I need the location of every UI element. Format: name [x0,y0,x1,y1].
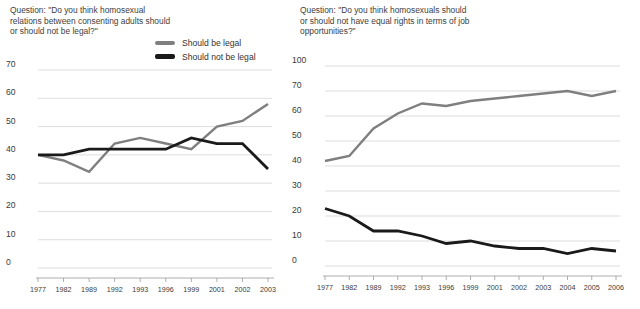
x-axis-tick-label: 2001 [209,285,225,294]
x-axis-tick-label: 1982 [56,285,72,294]
y-axis-tick-label: 20 [292,205,302,215]
y-axis-tick-label: 60 [6,87,16,97]
series-line-no-should-not [325,209,616,254]
right-chart-svg: 0102030405060701001977198219891992199319… [290,0,640,309]
y-axis-tick-label: 10 [292,230,302,240]
x-axis-tick-label: 1992 [390,283,406,292]
y-axis-tick-label: 20 [6,200,16,210]
x-axis-tick-label: 1999 [183,285,199,294]
y-axis-tick-label: 0 [6,257,11,267]
left-plot-area: 0102030405060701977198219891992199319961… [0,0,290,309]
y-axis-tick-label: 70 [6,59,16,69]
x-axis-tick-label: 2002 [234,285,250,294]
x-axis-tick-label: 2006 [608,283,624,292]
x-axis-tick-label: 2005 [584,283,600,292]
left-chart-panel: Question: "Do you think homosexual relat… [0,0,290,309]
series-line-yes-should [325,91,616,161]
y-axis-tick-label: 30 [6,172,16,182]
y-axis-tick-label: 40 [292,155,302,165]
y-axis-tick-label: 50 [292,130,302,140]
x-axis-tick-label: 1999 [463,283,479,292]
x-axis-tick-label: 2001 [487,283,503,292]
y-axis-tick-label: 50 [6,116,16,126]
x-axis-tick-label: 2003 [535,283,551,292]
y-axis-tick-label: 10 [6,229,16,239]
y-axis-tick-label: 60 [292,105,302,115]
y-axis-tick-label: 40 [6,144,16,154]
chart-pair: Question: "Do you think homosexual relat… [0,0,640,309]
x-axis-tick-label: 2003 [260,285,276,294]
x-axis-tick-label: 1989 [81,285,97,294]
y-axis-tick-label: 100 [292,55,307,65]
x-axis-tick-label: 2002 [511,283,527,292]
x-axis-tick-label: 1992 [107,285,123,294]
y-axis-tick-label: 0 [292,255,297,265]
y-axis-tick-label: 30 [292,180,302,190]
x-axis-tick-label: 1996 [438,283,454,292]
x-axis-tick-label: 1977 [317,283,333,292]
right-plot-area: 0102030405060701001977198219891992199319… [290,0,640,309]
series-line-should-be-legal [38,104,268,172]
x-axis-tick-label: 1993 [414,283,430,292]
x-axis-tick-label: 1989 [366,283,382,292]
x-axis-tick-label: 1996 [158,285,174,294]
x-axis-tick-label: 1993 [132,285,148,294]
x-axis-tick-label: 1977 [30,285,46,294]
left-chart-svg: 0102030405060701977198219891992199319961… [0,0,290,309]
right-chart-panel: Question: "Do you think homosexuals shou… [290,0,640,309]
x-axis-tick-label: 1982 [341,283,357,292]
y-axis-tick-label: 70 [292,80,302,90]
x-axis-tick-label: 2004 [560,283,576,292]
